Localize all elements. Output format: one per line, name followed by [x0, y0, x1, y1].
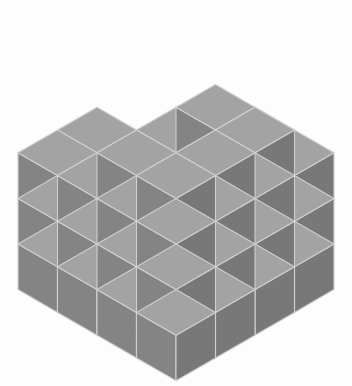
isometric-cube-stack: Isometric Cube Stack — [0, 0, 352, 386]
illustration-canvas: Isometric Cube Stack — [0, 0, 352, 386]
